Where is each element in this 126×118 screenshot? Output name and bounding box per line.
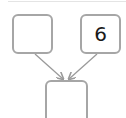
right-number-box[interactable]: 6 [80, 14, 121, 54]
arrow-left-to-bottom [35, 54, 63, 79]
left-number-box[interactable] [12, 14, 53, 54]
bottom-number-box[interactable] [45, 80, 88, 118]
arrow-right-to-bottom [69, 54, 97, 79]
right-box-value: 6 [94, 22, 107, 46]
